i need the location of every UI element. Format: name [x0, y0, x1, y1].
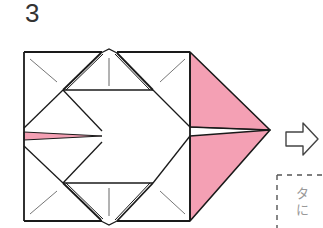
right-upper-flap	[190, 52, 270, 130]
top-flap	[63, 49, 153, 90]
origami-diagram	[0, 0, 323, 228]
hollow-right-arrow-icon	[286, 123, 318, 155]
bottom-flap	[63, 183, 153, 225]
note-line-1: タ	[296, 186, 309, 201]
note-text: タ に	[296, 186, 309, 218]
left-pink-strip	[24, 132, 102, 140]
right-lower-flap	[190, 130, 270, 221]
note-line-2: に	[296, 202, 309, 217]
